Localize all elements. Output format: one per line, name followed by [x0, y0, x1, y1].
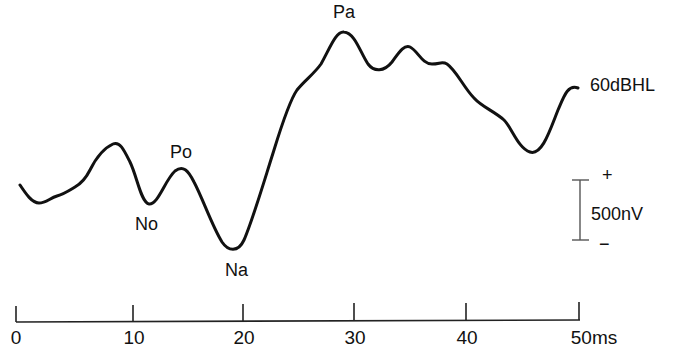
waveform-trace [20, 32, 578, 249]
scale-minus: − [599, 235, 610, 253]
x-tick-label-10: 10 [123, 328, 144, 347]
waveform-chart [0, 0, 677, 364]
series-label-60dbhl: 60dBHL [590, 76, 655, 94]
x-tick-label-40: 40 [456, 328, 477, 347]
x-tick-label-50ms: 50ms [571, 328, 617, 347]
label-po: Po [170, 143, 192, 161]
label-no: No [135, 215, 158, 233]
label-na: Na [225, 261, 248, 279]
x-tick-label-20: 20 [233, 328, 254, 347]
x-tick-label-30: 30 [344, 328, 365, 347]
scale-plus: + [602, 166, 613, 184]
x-axis-line [16, 320, 580, 322]
label-pa: Pa [333, 3, 355, 21]
scale-value: 500nV [591, 205, 643, 223]
x-tick-label-0: 0 [11, 328, 22, 347]
